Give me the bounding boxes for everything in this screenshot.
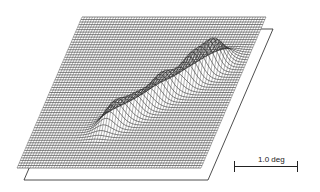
scale-bar: 1.0 deg: [234, 155, 299, 175]
scale-bar-line: [234, 166, 298, 167]
surface-grid: [17, 17, 266, 168]
scale-bar-label: 1.0 deg: [258, 155, 285, 164]
scale-bar-right-tick: [297, 161, 298, 172]
